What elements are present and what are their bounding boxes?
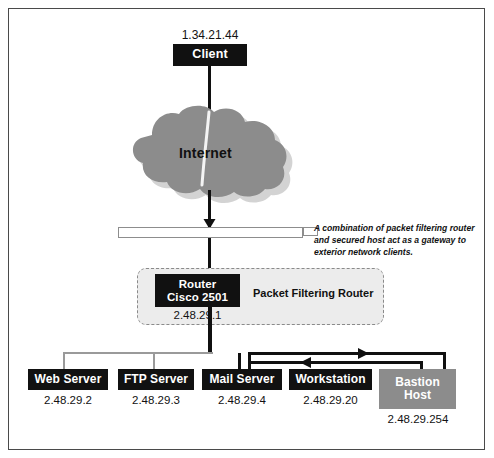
bastion-link-inbound xyxy=(248,361,423,364)
annotation-text: A combination of packet filtering router… xyxy=(314,222,484,259)
lan-bus-thin xyxy=(63,352,213,354)
node-bastion-host-line2: Host xyxy=(404,389,431,402)
node-ftp-server[interactable]: FTP Server xyxy=(118,369,194,390)
node-workstation-label: Workstation xyxy=(295,373,365,386)
network-diagram: 1.34.21.44 Client Internet A combination… xyxy=(0,0,494,458)
firewall-bar xyxy=(118,227,303,238)
lan-drop-mail xyxy=(238,353,241,370)
node-web-server-label: Web Server xyxy=(35,373,102,386)
bastion-drop-outbound xyxy=(443,353,446,370)
router-ip-label: 2.48.29.1 xyxy=(155,309,240,321)
link-firewall-to-router-zone xyxy=(208,238,211,269)
node-bastion-host[interactable]: Bastion Host xyxy=(379,369,456,409)
lan-drop-workstation xyxy=(248,353,251,370)
lan-drop-ftp xyxy=(153,353,155,370)
node-router-line2: Cisco 2501 xyxy=(167,291,228,303)
node-ftp-server-label: FTP Server xyxy=(124,373,188,386)
mail-server-ip-label: 2.48.29.4 xyxy=(202,394,282,406)
bastion-host-ip-label: 2.48.29.254 xyxy=(373,413,463,425)
arrow-left-from-bastion xyxy=(298,356,314,370)
lan-drop-web xyxy=(63,353,65,370)
node-router[interactable]: Router Cisco 2501 xyxy=(155,274,240,307)
internet-cloud-label: Internet xyxy=(118,145,293,161)
arrow-right-to-bastion xyxy=(355,347,371,361)
client-ip-label: 1.34.21.44 xyxy=(155,28,265,42)
node-client-label: Client xyxy=(192,48,227,62)
bastion-link-outbound xyxy=(248,352,446,355)
workstation-ip-label: 2.48.29.20 xyxy=(289,394,372,406)
router-zone-label: Packet Filtering Router xyxy=(253,287,373,299)
node-router-line1: Router xyxy=(179,278,217,290)
internet-cloud: Internet xyxy=(118,105,308,207)
node-client[interactable]: Client xyxy=(173,44,247,66)
ftp-server-ip-label: 2.48.29.3 xyxy=(118,394,194,406)
node-mail-server[interactable]: Mail Server xyxy=(202,369,282,390)
node-mail-server-label: Mail Server xyxy=(209,373,274,386)
node-web-server[interactable]: Web Server xyxy=(28,369,108,390)
web-server-ip-label: 2.48.29.2 xyxy=(28,394,108,406)
node-workstation[interactable]: Workstation xyxy=(289,369,372,390)
link-router-to-lan-bus xyxy=(208,307,212,354)
